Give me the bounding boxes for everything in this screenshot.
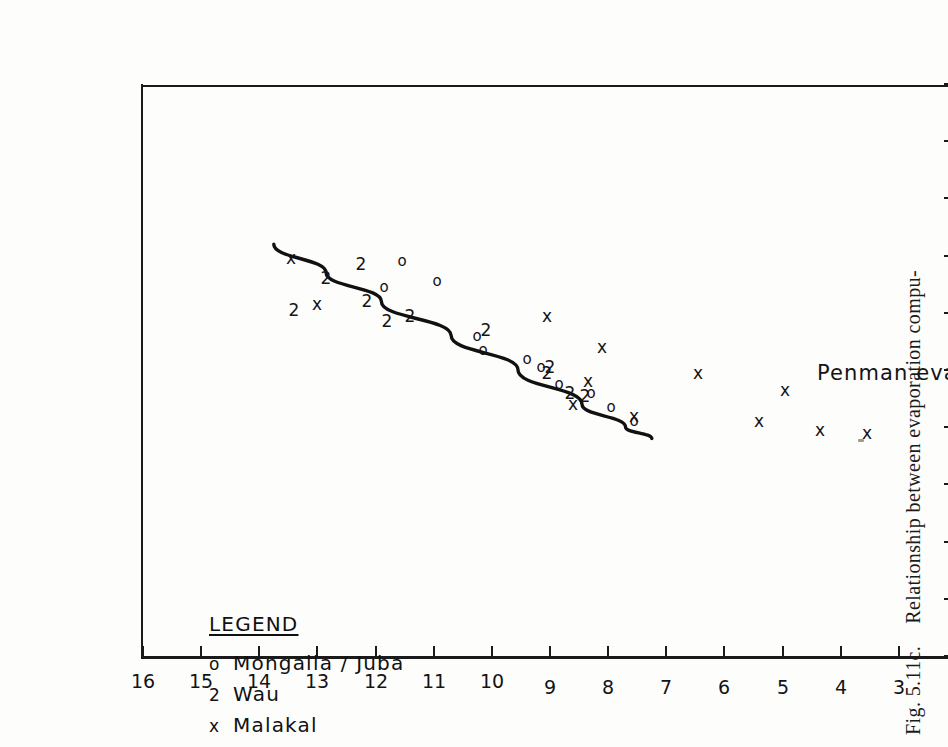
legend-label: Malakal [233,713,318,737]
data-point-o: o [522,351,531,366]
data-point-o: o [380,279,389,294]
scan-artifact [858,439,864,442]
legend: LEGEND oMongalla / Juba2WauxMalakal Poin… [209,612,499,747]
y-tick-label: 16 [131,669,155,691]
data-point-x: x [754,412,764,429]
x-tick [944,483,948,485]
y-tick-label: 5 [777,675,789,697]
data-point-x: x [780,381,790,398]
legend-title: LEGEND [209,612,499,636]
legend-label: Mongalla / Juba [233,651,404,675]
y-tick [840,646,842,657]
x-tick [944,540,948,542]
data-point-2: 2 [321,269,332,286]
y-tick [782,646,784,657]
y-tick-label: 8 [602,675,614,697]
x-axis-title: Penman evaporation, mm./day [817,361,948,385]
data-point-x: x [542,307,552,324]
x-tick [944,254,948,256]
data-point-2: 2 [356,255,367,272]
data-point-x: x [693,364,703,381]
y-tick [607,646,609,657]
scanned-page: ooooooooooo22222222222xxxxxxxxxxxxx1x2x3… [0,0,948,747]
x-tick [944,311,948,313]
legend-symbol-o: o [209,654,233,674]
data-point-2: 2 [542,364,553,381]
figure-number: Fig. 5.11c. [902,646,924,735]
data-point-o: o [432,273,441,288]
x-tick [944,426,948,428]
data-point-x: x [568,395,578,412]
y-tick [665,646,667,657]
data-point-x: x [286,249,296,266]
data-point-x: x [815,421,825,438]
y-tick [200,646,202,657]
data-point-o: o [397,253,406,268]
y-tick [142,646,144,657]
figure-canvas: ooooooooooo22222222222xxxxxxxxxxxxx1x2x3… [59,44,889,704]
legend-symbol-2: 2 [209,685,233,705]
x-tick [944,655,948,657]
data-point-2: 2 [361,292,372,309]
data-point-x: x [629,407,639,424]
y-tick [549,646,551,657]
y-tick [723,646,725,657]
legend-item: 2Wau [209,682,499,706]
x-tick [944,597,948,599]
x-tick [944,83,948,85]
data-point-x: x [312,295,322,312]
data-point-2: 2 [289,301,300,318]
data-point-2: 2 [405,307,416,324]
figure-caption-text: Relationship between evaporation compu- [902,270,924,624]
y-tick-label: 7 [660,675,672,697]
y-tick [898,646,900,657]
data-point-x: x [597,338,607,355]
y-tick-label: 9 [544,675,556,697]
legend-label: Wau [233,682,280,706]
data-point-x: x [583,372,593,389]
x-tick [944,197,948,199]
legend-symbol-x: x [209,716,233,736]
legend-entries: oMongalla / Juba2WauxMalakal [209,651,499,737]
y-tick-label: 4 [835,675,847,697]
legend-item: oMongalla / Juba [209,651,499,675]
data-point-o: o [479,342,488,357]
y-tick-label: 6 [718,675,730,697]
data-point-o: o [606,399,615,414]
x-tick [944,140,948,142]
legend-item: xMalakal [209,713,499,737]
data-point-2: 2 [382,312,393,329]
figure-caption: Fig. 5.11c.Relationship between evaporat… [902,270,925,735]
data-point-2: 2 [481,321,492,338]
data-point-o: o [554,376,563,391]
